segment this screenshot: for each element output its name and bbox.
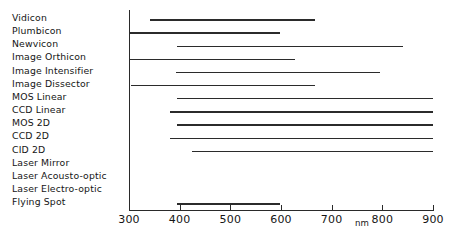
range-bar	[177, 203, 280, 204]
category-label: Flying Spot	[12, 197, 126, 207]
x-axis-tick-mark	[332, 205, 333, 211]
x-axis-tick-label: 700	[321, 213, 343, 226]
y-axis-line	[129, 10, 130, 211]
x-axis-tick-label: 800	[372, 213, 394, 226]
range-bar	[176, 72, 380, 73]
range-bar	[130, 59, 295, 60]
category-label: Laser Acousto-optic	[12, 171, 126, 181]
range-bar	[177, 98, 433, 99]
category-label: Laser Mirror	[12, 158, 126, 168]
range-bar	[150, 19, 315, 20]
x-axis-tick-label: 600	[270, 213, 292, 226]
range-bar	[170, 111, 433, 112]
x-axis-tick-mark	[129, 205, 130, 211]
x-axis-tick-label: 500	[220, 213, 242, 226]
range-bar	[131, 85, 315, 86]
x-axis-unit-label: nm	[355, 218, 369, 228]
category-label: Image Dissector	[12, 79, 126, 89]
category-label: Image Orthicon	[12, 52, 126, 62]
range-bar	[177, 46, 403, 47]
category-label: MOS Linear	[12, 92, 126, 102]
category-label: Newvicon	[12, 39, 126, 49]
x-axis-tick-mark	[281, 205, 282, 211]
x-axis-tick-mark	[433, 205, 434, 211]
range-bar	[170, 138, 433, 139]
range-bar	[177, 124, 433, 125]
range-bar	[130, 32, 280, 33]
x-axis-tick-mark	[230, 205, 231, 211]
category-label: MOS 2D	[12, 118, 126, 128]
x-axis-tick-label: 900	[422, 213, 444, 226]
range-bar	[192, 151, 433, 152]
x-axis-tick-label: 300	[118, 213, 140, 226]
x-axis-tick-label: 400	[169, 213, 191, 226]
category-label: CID 2D	[12, 145, 126, 155]
category-label: CCD Linear	[12, 105, 126, 115]
category-label: Plumbicon	[12, 26, 126, 36]
category-label-column: VidiconPlumbiconNewviconImage OrthiconIm…	[0, 0, 126, 243]
x-axis-tick-mark	[180, 205, 181, 211]
category-label: CCD 2D	[12, 131, 126, 141]
x-axis-tick-mark	[382, 205, 383, 211]
category-label: Laser Electro-optic	[12, 184, 126, 194]
category-label: Image Intensifier	[12, 66, 126, 76]
category-label: Vidicon	[12, 13, 126, 23]
spectral-range-chart: VidiconPlumbiconNewviconImage OrthiconIm…	[0, 0, 454, 243]
